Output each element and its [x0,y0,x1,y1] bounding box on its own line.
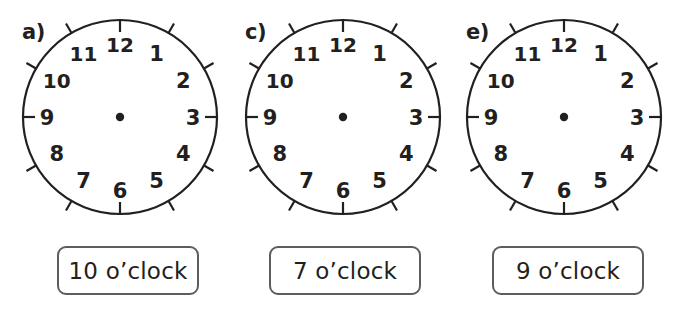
hour-tick-11 [510,23,516,33]
center-dot [560,113,568,121]
hour-numeral-4: 4 [620,142,635,166]
answer-box-e[interactable]: 9 o’clock [492,246,644,295]
clock-face-c[interactable]: 121234567891011 [223,0,463,230]
hour-tick-5 [169,201,175,211]
clock-item-e: e) 121234567891011 9 o’clock [444,0,673,312]
hour-numeral-5: 5 [149,169,164,193]
hour-numeral-2: 2 [620,69,635,93]
hour-tick-8 [26,166,36,172]
hour-numeral-3: 3 [186,106,201,130]
worksheet-canvas: a) 121234567891011 10 o’clock c) 1212345… [0,0,673,312]
hour-tick-8 [249,166,259,172]
hour-numeral-12: 12 [329,33,357,57]
hour-tick-1 [613,23,619,33]
hour-numeral-11: 11 [514,42,542,66]
hour-numeral-7: 7 [520,169,535,193]
clock-face-e[interactable]: 121234567891011 [444,0,673,230]
hour-tick-11 [66,23,72,33]
hour-tick-10 [249,63,259,69]
hour-tick-4 [204,166,214,172]
hour-tick-4 [427,166,437,172]
hour-numeral-4: 4 [176,142,191,166]
hour-numeral-2: 2 [176,69,191,93]
hour-numeral-6: 6 [113,179,128,203]
hour-tick-1 [169,23,175,33]
hour-numeral-1: 1 [372,42,387,66]
answer-box-a[interactable]: 10 o’clock [57,246,199,295]
hour-numeral-5: 5 [372,169,387,193]
answer-box-c[interactable]: 7 o’clock [269,246,421,295]
clock-item-c: c) 121234567891011 7 o’clock [223,0,463,312]
clock-item-a: a) 121234567891011 10 o’clock [0,0,240,312]
hour-tick-8 [470,166,480,172]
hour-numeral-4: 4 [399,142,414,166]
hour-tick-5 [613,201,619,211]
hour-numeral-5: 5 [593,169,608,193]
hour-numeral-8: 8 [49,142,64,166]
hour-tick-7 [289,201,295,211]
hour-tick-1 [392,23,398,33]
answer-text-a: 10 o’clock [68,258,187,284]
hour-tick-11 [289,23,295,33]
hour-numeral-2: 2 [399,69,414,93]
answer-text-e: 9 o’clock [516,258,620,284]
hour-numeral-12: 12 [106,33,134,57]
hour-numeral-8: 8 [272,142,287,166]
hour-tick-4 [648,166,658,172]
hour-tick-10 [26,63,36,69]
hour-numeral-6: 6 [557,179,572,203]
center-dot [339,113,347,121]
answer-text-c: 7 o’clock [293,258,397,284]
hour-numeral-11: 11 [70,42,98,66]
hour-tick-2 [204,63,214,69]
hour-numeral-7: 7 [299,169,314,193]
hour-tick-10 [470,63,480,69]
hour-tick-7 [510,201,516,211]
hour-tick-7 [66,201,72,211]
hour-numeral-9: 9 [484,106,499,130]
hour-numeral-8: 8 [493,142,508,166]
hour-numeral-10: 10 [266,69,294,93]
hour-tick-2 [427,63,437,69]
hour-numeral-10: 10 [487,69,515,93]
hour-tick-5 [392,201,398,211]
hour-numeral-3: 3 [409,106,424,130]
hour-numeral-9: 9 [40,106,55,130]
hour-numeral-9: 9 [263,106,278,130]
hour-numeral-1: 1 [149,42,164,66]
hour-tick-2 [648,63,658,69]
hour-numeral-11: 11 [293,42,321,66]
hour-numeral-1: 1 [593,42,608,66]
hour-numeral-3: 3 [630,106,645,130]
hour-numeral-12: 12 [550,33,578,57]
center-dot [116,113,124,121]
hour-numeral-10: 10 [43,69,71,93]
hour-numeral-6: 6 [336,179,351,203]
hour-numeral-7: 7 [76,169,91,193]
clock-face-a[interactable]: 121234567891011 [0,0,240,230]
